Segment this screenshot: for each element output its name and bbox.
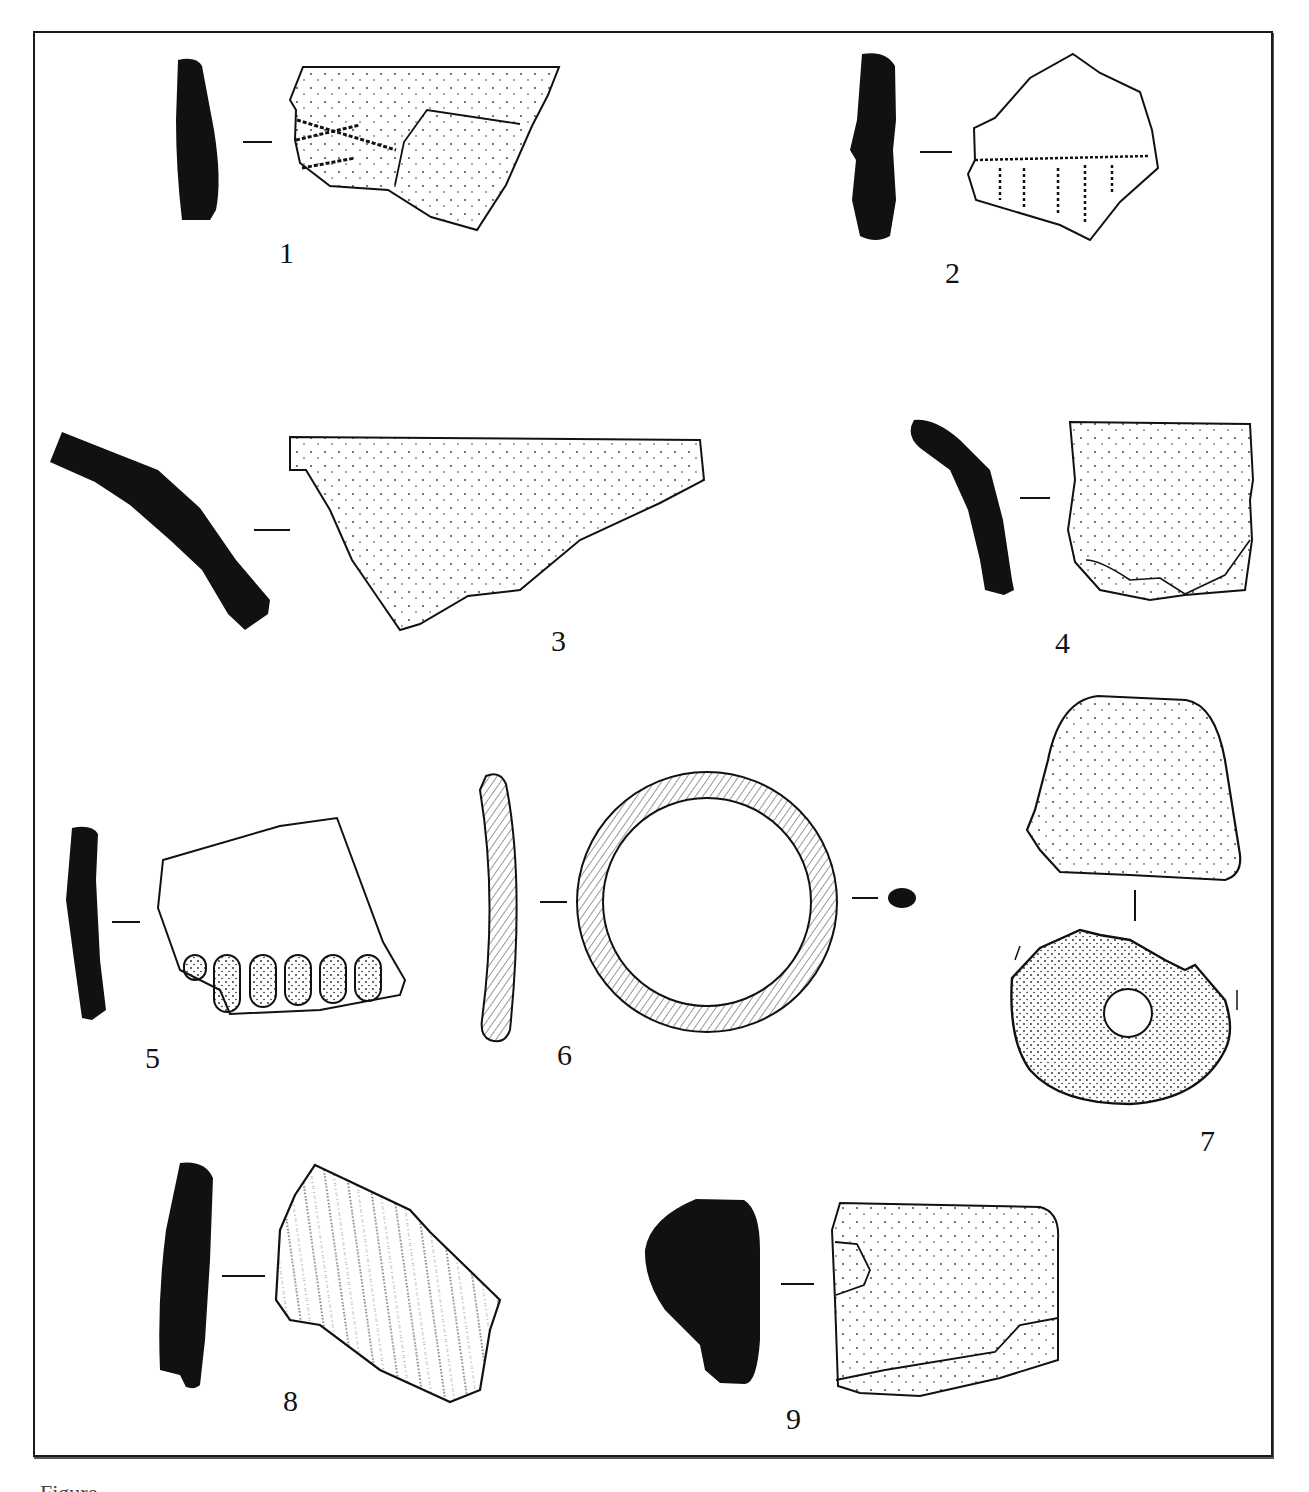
item-number-3: 3 [551, 626, 566, 656]
artifact-7 [1011, 696, 1240, 1104]
artifact-2 [850, 53, 1158, 240]
figure-caption-truncated: Figure ... [40, 1481, 119, 1492]
item-number-6: 6 [557, 1040, 572, 1070]
item-number-9: 9 [786, 1404, 801, 1434]
item-number-2: 2 [945, 258, 960, 288]
artifact-8 [159, 1163, 500, 1402]
whorl-side-view [1027, 696, 1240, 880]
item-number-5: 5 [145, 1043, 160, 1073]
item-number-7: 7 [1200, 1126, 1215, 1156]
artifact-6 [480, 772, 916, 1041]
profile-section-4 [911, 420, 1014, 595]
ring-cross-section [888, 888, 916, 908]
item-number-1: 1 [279, 238, 294, 268]
item-number-8: 8 [283, 1386, 298, 1416]
profile-section-2 [850, 53, 896, 240]
artifact-9 [645, 1199, 1058, 1396]
item-number-4: 4 [1055, 628, 1070, 658]
artifact-1 [176, 59, 559, 230]
artifact-4 [911, 420, 1253, 600]
artifact-5 [66, 818, 405, 1020]
artifact-drawings [0, 0, 1309, 1492]
profile-section-9 [645, 1199, 760, 1384]
profile-section-3 [50, 432, 270, 630]
ring-side-view [480, 774, 517, 1041]
profile-section-8 [159, 1163, 213, 1389]
profile-section-5 [66, 827, 106, 1020]
profile-section-1 [176, 59, 219, 220]
artifact-3 [50, 432, 704, 630]
